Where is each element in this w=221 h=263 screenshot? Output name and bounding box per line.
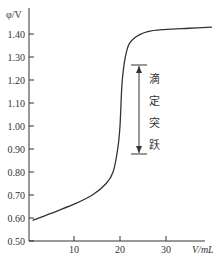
- arrow-down-icon: [136, 146, 142, 153]
- y-tick-label: 0.50: [8, 236, 26, 247]
- annotation-char: 滴: [149, 72, 160, 86]
- y-tick-label: 1.30: [8, 52, 26, 63]
- x-tick-label: 30: [161, 244, 171, 255]
- y-ticks: 0.500.600.700.800.901.001.101.201.301.40: [8, 29, 35, 247]
- y-tick-label: 1.00: [8, 121, 26, 132]
- y-tick-label: 0.80: [8, 167, 26, 178]
- x-tick-label: 20: [115, 244, 125, 255]
- x-tick-label: 10: [69, 244, 79, 255]
- chart: 0.500.600.700.800.901.001.101.201.301.40…: [0, 0, 221, 263]
- titration-curve: [33, 27, 212, 220]
- arrow-up-icon: [136, 66, 142, 73]
- annotation-char: 突: [149, 116, 160, 130]
- titration-jump-annotation: 滴定突跃: [131, 65, 160, 154]
- x-ticks: 102030: [69, 236, 171, 255]
- x-axis-label: V/mL: [192, 244, 214, 255]
- y-tick-label: 1.40: [8, 29, 26, 40]
- y-tick-label: 1.10: [8, 98, 26, 109]
- y-tick-label: 0.60: [8, 213, 26, 224]
- y-tick-label: 0.70: [8, 190, 26, 201]
- annotation-char: 定: [149, 94, 160, 108]
- annotation-char: 跃: [149, 138, 160, 152]
- y-tick-label: 1.20: [8, 75, 26, 86]
- y-axis-label: φ/V: [6, 9, 23, 20]
- y-tick-label: 0.90: [8, 144, 26, 155]
